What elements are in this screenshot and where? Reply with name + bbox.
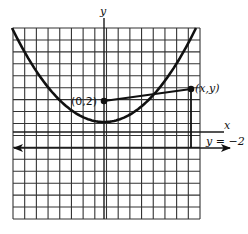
curve-point-label: (x,y): [195, 82, 220, 95]
directrix-label: y = −2: [205, 135, 245, 148]
y-axis-label: y: [99, 5, 107, 18]
x-axis-label: x: [224, 119, 231, 132]
grid: [13, 28, 200, 219]
curve-point: [188, 86, 195, 93]
focus-label: (0,2): [71, 95, 97, 108]
parabola-diagram: y x (0,2) (x,y) y = −2: [0, 0, 248, 234]
focus-point: [101, 98, 108, 105]
